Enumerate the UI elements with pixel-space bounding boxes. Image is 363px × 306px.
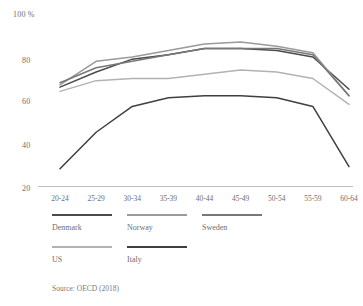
x-axis-tick-50-54: 50-54 — [261, 194, 293, 203]
y-axis-tick-40: 40 — [22, 141, 30, 150]
legend-item-norway[interactable]: Norway — [127, 214, 187, 232]
x-axis-tick-35-39: 35-39 — [152, 194, 184, 203]
plot-area — [38, 10, 353, 188]
legend-row-2: US Italy — [0, 246, 357, 278]
series-line-us — [60, 70, 349, 104]
legend-item-sweden[interactable]: Sweden — [202, 214, 262, 232]
legend-swatch-italy — [127, 246, 187, 248]
x-axis-tick-60-64: 60-64 — [333, 194, 363, 203]
y-axis-tick-80: 80 — [22, 56, 30, 65]
x-axis-tick-55-59: 55-59 — [297, 194, 329, 203]
legend-item-italy[interactable]: Italy — [127, 246, 187, 264]
legend-label-norway: Norway — [127, 223, 187, 232]
x-axis-tick-25-29: 25-29 — [80, 194, 112, 203]
legend-swatch-norway — [127, 214, 187, 216]
y-axis-tick-60: 60 — [22, 97, 30, 106]
legend-swatch-sweden — [202, 214, 262, 216]
chart-legend: Denmark Norway Sweden US Italy — [0, 214, 357, 278]
legend-label-italy: Italy — [127, 255, 187, 264]
legend-item-denmark[interactable]: Denmark — [52, 214, 112, 232]
y-axis-tick-100: 100 % — [13, 10, 35, 19]
x-axis-tick-20-24: 20-24 — [44, 194, 76, 203]
line-chart-svg — [38, 10, 353, 188]
series-line-denmark — [60, 48, 349, 89]
legend-label-us: US — [52, 255, 112, 264]
legend-swatch-denmark — [52, 214, 112, 216]
legend-swatch-us — [52, 246, 112, 248]
series-line-italy — [60, 96, 349, 169]
legend-label-sweden: Sweden — [202, 223, 262, 232]
legend-row-1: Denmark Norway Sweden — [0, 214, 357, 246]
legend-item-us[interactable]: US — [52, 246, 112, 264]
x-axis-tick-30-34: 30-34 — [116, 194, 148, 203]
source-note: Source: OECD (2018) — [52, 284, 119, 293]
y-axis-tick-20: 20 — [22, 184, 30, 193]
legend-label-denmark: Denmark — [52, 223, 112, 232]
x-axis-tick-40-44: 40-44 — [189, 194, 221, 203]
x-axis-tick-45-49: 45-49 — [225, 194, 257, 203]
